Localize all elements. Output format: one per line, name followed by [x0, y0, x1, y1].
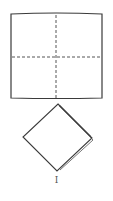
folding-diagram	[0, 0, 113, 201]
folded-layer-edge	[59, 106, 93, 170]
step-label: I	[0, 175, 113, 185]
folded-layer-edge-2	[60, 105, 91, 136]
folded-diamond	[23, 104, 92, 171]
